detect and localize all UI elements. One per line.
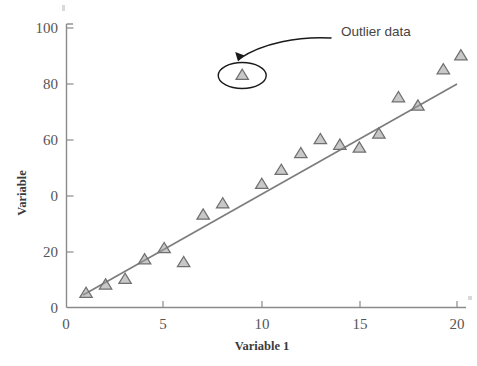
y-tick-label-40: 0: [51, 188, 59, 204]
data-point-marker: [119, 273, 131, 283]
x-tick-label-10: 10: [255, 316, 270, 332]
x-axis-title: Variable 1: [235, 339, 290, 353]
y-tick-label-0: 0: [51, 300, 59, 316]
scan-artifact-speck: [62, 5, 65, 11]
chart-canvas: 100 80 60 0 20 0 0 5 10 15 20 Variable 1…: [0, 0, 477, 366]
outlier-annotation-label: Outlier data: [341, 24, 411, 39]
y-tick-label-60: 60: [43, 132, 58, 148]
data-point-marker: [334, 139, 346, 149]
y-tick-label-80: 80: [43, 76, 58, 92]
data-point-markers: [80, 50, 467, 298]
scatter-chart: 100 80 60 0 20 0 0 5 10 15 20 Variable 1…: [0, 0, 477, 366]
data-point-marker: [217, 198, 229, 208]
data-point-marker: [256, 178, 268, 188]
data-point-marker: [437, 64, 449, 74]
data-point-marker: [455, 50, 467, 60]
y-axis-tick-labels: 100 80 60 0 20 0: [36, 20, 59, 316]
data-point-marker: [138, 254, 150, 264]
y-axis-title: Variable: [15, 170, 29, 216]
axis-lines: [67, 24, 467, 308]
x-tick-label-0: 0: [62, 316, 70, 332]
data-point-marker: [373, 128, 385, 138]
data-point-marker: [236, 69, 248, 79]
data-point-marker: [295, 147, 307, 157]
data-point-marker: [80, 287, 92, 297]
data-point-marker: [412, 100, 424, 110]
data-point-marker: [177, 256, 189, 266]
y-tick-label-20: 20: [43, 244, 58, 260]
data-point-marker: [353, 142, 365, 152]
x-axis-ticks: [163, 301, 457, 308]
y-tick-label-100: 100: [36, 20, 59, 36]
x-tick-label-5: 5: [159, 316, 167, 332]
data-point-marker: [197, 209, 209, 219]
x-tick-label-20: 20: [450, 316, 465, 332]
y-axis-ticks: [67, 28, 74, 252]
data-point-marker: [314, 133, 326, 143]
data-point-marker: [275, 164, 287, 174]
outlier-arrow-curve: [239, 38, 331, 59]
scan-artifact-speck-2: [468, 296, 472, 300]
x-tick-label-15: 15: [353, 316, 368, 332]
x-axis-tick-labels: 0 5 10 15 20: [62, 316, 464, 332]
data-point-marker: [392, 92, 404, 102]
